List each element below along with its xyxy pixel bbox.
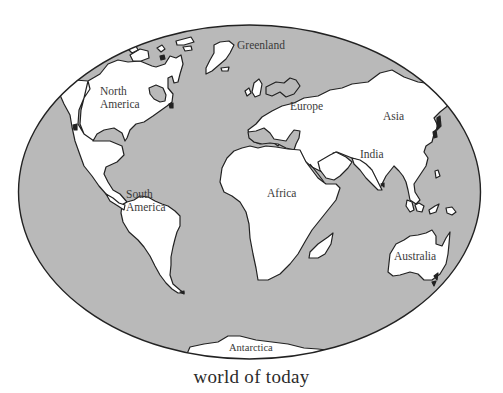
arctic-island <box>160 55 165 60</box>
label-antarctica: Antarctica <box>229 341 273 354</box>
coast-mark <box>169 103 173 108</box>
label-north-america-line2: America <box>100 98 140 111</box>
label-south-america-line2: America <box>126 201 166 214</box>
label-europe: Europe <box>290 100 323 113</box>
label-south-america-line1: South <box>126 188 153 201</box>
iceland <box>221 67 229 71</box>
label-asia: Asia <box>383 110 404 123</box>
world-map <box>0 0 503 393</box>
japan <box>433 130 437 138</box>
label-greenland: Greenland <box>237 39 285 52</box>
map-caption: world of today <box>0 366 503 388</box>
label-india: India <box>360 148 384 161</box>
label-africa: Africa <box>267 187 296 200</box>
arctic-island <box>183 46 192 51</box>
label-australia: Australia <box>394 250 436 263</box>
label-north-america-line1: North <box>100 85 127 98</box>
coast-mark <box>73 124 77 130</box>
